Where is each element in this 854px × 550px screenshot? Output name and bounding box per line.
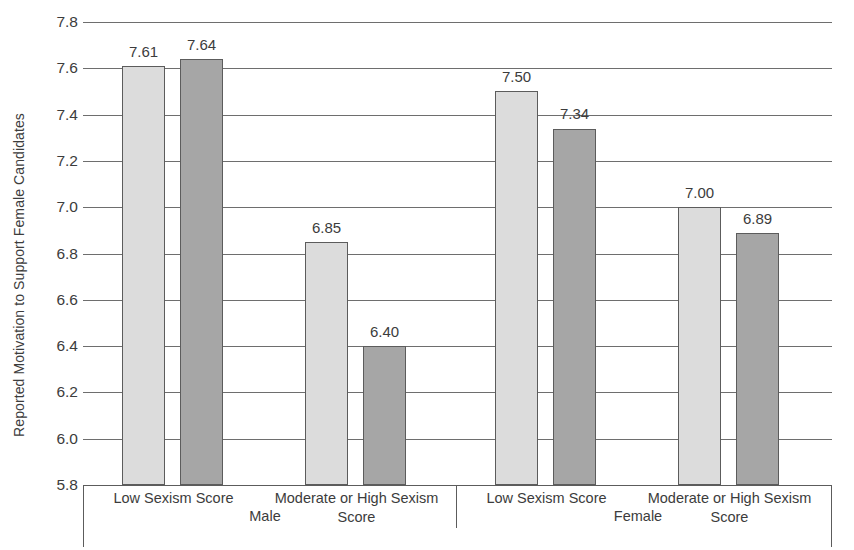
- bar: [495, 91, 538, 485]
- y-axis-tick-label: 6.4: [32, 337, 78, 355]
- y-axis-tick-label: 7.8: [32, 13, 78, 31]
- bar: [678, 207, 721, 485]
- y-axis-tick-label: 5.8: [32, 476, 78, 494]
- bar-value-label: 6.40: [370, 323, 399, 340]
- y-axis-tick-label: 6.2: [32, 383, 78, 401]
- category-label: Moderate or High Sexism Score: [257, 489, 457, 527]
- y-axis-tick-label: 6.0: [32, 430, 78, 448]
- y-axis-tick-label: 7.6: [32, 59, 78, 77]
- bar: [180, 59, 223, 485]
- bar-value-label: 6.85: [312, 219, 341, 236]
- group-label: Male: [249, 508, 280, 524]
- y-axis-tick-label: 6.8: [32, 245, 78, 263]
- bar-value-label: 7.50: [502, 68, 531, 85]
- y-axis-tick-labels: 7.87.67.47.27.06.86.66.46.26.05.8: [20, 0, 78, 550]
- group-label: Female: [614, 508, 662, 524]
- bar: [363, 346, 406, 485]
- bar-value-label: 6.89: [743, 210, 772, 227]
- y-axis-tick-label: 7.4: [32, 106, 78, 124]
- bar-value-label: 7.00: [685, 184, 714, 201]
- bar-value-label: 7.64: [187, 36, 216, 53]
- bar: [305, 242, 348, 485]
- bar: [122, 66, 165, 485]
- y-axis-tick-label: 7.0: [32, 198, 78, 216]
- category-label: Low Sexism Score: [452, 489, 642, 508]
- y-axis-tick-label: 6.6: [32, 291, 78, 309]
- bar-chart: Reported Motivation to Support Female Ca…: [0, 0, 854, 550]
- y-axis-tick-label: 7.2: [32, 152, 78, 170]
- category-label: Low Sexism Score: [79, 489, 269, 508]
- bar: [553, 129, 596, 486]
- bar-value-label: 7.34: [560, 105, 589, 122]
- gridline: [83, 22, 832, 23]
- bar-value-label: 7.61: [129, 43, 158, 60]
- plot-area: 7.617.646.856.407.507.347.006.89: [83, 0, 832, 485]
- bar: [736, 233, 779, 485]
- category-axis: Low Sexism ScoreModerate or High Sexism …: [83, 485, 832, 547]
